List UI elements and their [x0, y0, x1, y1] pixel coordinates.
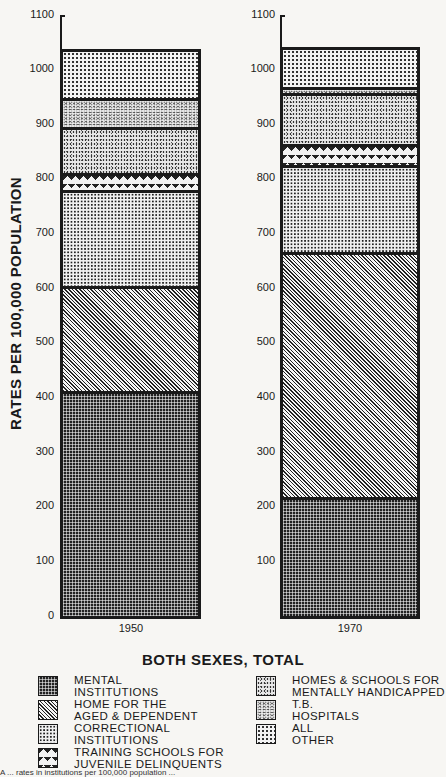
footnote: A ... rates in institutions per 100,000 … — [0, 768, 175, 777]
tick-label: 200 — [20, 499, 54, 511]
tick-label: 800 — [20, 171, 54, 183]
tick-label: 900 — [241, 117, 275, 129]
tick-label: 100 — [241, 554, 275, 566]
legend-swatch — [38, 724, 58, 744]
tick-label: 800 — [241, 171, 275, 183]
segment-home-for-aged — [63, 286, 198, 391]
chart-subtitle: BOTH SEXES, TOTAL — [0, 651, 446, 668]
legend-item-mentally-handicapped: HOMES & SCHOOLS FOR MENTALLY HANDICAPPED — [256, 674, 445, 698]
legend-label: T.B. HOSPITALS — [292, 698, 359, 722]
tick-label: 600 — [241, 281, 275, 293]
tick-label: 900 — [20, 117, 54, 129]
legend-label: HOMES & SCHOOLS FOR MENTALLY HANDICAPPED — [292, 674, 445, 698]
x-label-1950: 1950 — [101, 622, 161, 634]
tick-label: 300 — [20, 445, 54, 457]
legend-label: HOME FOR THE AGED & DEPENDENT — [74, 698, 198, 722]
tick-label: 400 — [241, 390, 275, 402]
legend-swatch — [256, 724, 276, 744]
bar-1950 — [60, 49, 201, 619]
legend-swatch — [38, 748, 58, 768]
segment-correctional — [63, 190, 198, 286]
y-axis-title: RATES PER 100,000 POPULATION — [7, 154, 24, 454]
segment-all-other — [283, 50, 417, 87]
segment-mental-institutions — [63, 391, 198, 616]
tick-label: 0 — [20, 609, 54, 621]
legend-swatch — [38, 700, 58, 720]
tick-label: 1000 — [241, 62, 275, 74]
segment-mental-institutions — [283, 497, 417, 616]
segment-mentally-handicapped — [63, 127, 198, 173]
legend-item-correctional: CORRECTIONAL INSTITUTIONS — [38, 722, 170, 746]
legend-item-aged: HOME FOR THE AGED & DEPENDENT — [38, 698, 198, 722]
segment-home-for-aged — [283, 252, 417, 497]
segment-correctional — [283, 165, 417, 252]
tick-label: 1100 — [241, 8, 275, 20]
legend-label: CORRECTIONAL INSTITUTIONS — [74, 722, 170, 746]
x-label-1970: 1970 — [320, 622, 380, 634]
legend-label: MENTAL INSTITUTIONS — [74, 674, 159, 698]
tick-label: 100 — [20, 554, 54, 566]
tick-label: 400 — [20, 390, 54, 402]
segment-mentally-handicapped — [283, 93, 417, 144]
y-axis-cap — [280, 15, 285, 17]
segment-training-schools — [283, 144, 417, 165]
tick-label: 700 — [20, 226, 54, 238]
legend-swatch — [256, 700, 276, 720]
legend-item-tb: T.B. HOSPITALS — [256, 698, 359, 722]
segment-training-schools — [63, 173, 198, 190]
legend-swatch — [38, 676, 58, 696]
tick-label: 600 — [20, 281, 54, 293]
tick-label: 1000 — [20, 62, 54, 74]
tick-label: 700 — [241, 226, 275, 238]
legend-item-training: TRAINING SCHOOLS FOR JUVENILE DELINQUENT… — [38, 746, 224, 770]
legend-label: TRAINING SCHOOLS FOR JUVENILE DELINQUENT… — [74, 746, 224, 770]
y-axis-cap — [60, 15, 65, 17]
legend-label: ALL OTHER — [292, 722, 334, 746]
tick-label: 200 — [241, 499, 275, 511]
legend-swatch — [256, 676, 276, 696]
segment-all-other — [63, 52, 198, 98]
legend-item-all-other: ALL OTHER — [256, 722, 334, 746]
tick-label: 500 — [241, 335, 275, 347]
tick-label: 500 — [20, 335, 54, 347]
legend-item-mental: MENTAL INSTITUTIONS — [38, 674, 159, 698]
tick-label: 300 — [241, 445, 275, 457]
segment-tb-hospitals — [63, 98, 198, 127]
tick-label: 1100 — [20, 8, 54, 20]
bar-1970 — [280, 47, 420, 619]
